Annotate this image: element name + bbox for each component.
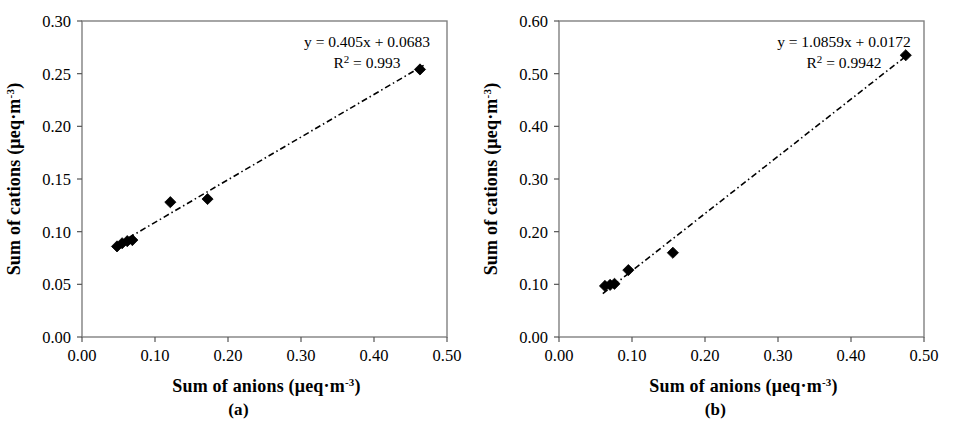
x-tick-label: 0.10 (618, 346, 647, 365)
y-tick-label: 0.00 (42, 328, 71, 347)
x-axis-title-tail: ) (832, 376, 838, 397)
y-tick-label: 0.05 (42, 275, 71, 294)
x-tick-label: 0.30 (764, 346, 793, 365)
r-squared-value: = 0.9942 (822, 54, 881, 71)
y-axis-title-tail: ) (4, 83, 25, 89)
y-tick-label: 0.25 (42, 65, 71, 84)
r-squared-prefix: R (807, 54, 818, 71)
y-axis-title-superscript: -3 (4, 89, 16, 99)
plot-a-content: 0.000.100.200.300.400.500.000.050.100.15… (4, 12, 461, 397)
panel-a-caption: (a) (0, 400, 477, 420)
r-squared-label: R2 = 0.993 (333, 53, 400, 71)
x-axis-title-superscript: -3 (822, 376, 832, 388)
y-axis-title: Sum of cations (μeq·m-3) (481, 83, 502, 276)
x-axis-title-tail: ) (355, 376, 361, 397)
y-tick-label: 0.20 (519, 223, 548, 242)
x-tick-label: 0.00 (68, 346, 97, 365)
y-tick-label: 0.40 (519, 117, 548, 136)
x-tick-label: 0.20 (214, 346, 243, 365)
r-squared-value: = 0.993 (349, 54, 401, 71)
x-tick-label: 0.50 (910, 346, 939, 365)
panel-b-caption: (b) (477, 400, 954, 420)
y-axis-title-group: Sum of cations (μeq·m-3) (481, 83, 502, 276)
x-axis-title: Sum of anions (μeq·m-3) (649, 376, 838, 397)
y-axis-title-superscript: -3 (481, 89, 493, 99)
y-axis-title-tail: ) (481, 83, 502, 89)
y-tick-label: 0.10 (42, 223, 71, 242)
y-tick-label: 0.30 (42, 12, 71, 31)
y-tick-label: 0.20 (42, 117, 71, 136)
y-tick-label: 0.30 (519, 170, 548, 189)
panel-a: 0.000.100.200.300.400.500.000.050.100.15… (0, 0, 477, 441)
regression-equation-label: y = 1.0859x + 0.0172 (777, 33, 911, 50)
x-axis-title-main: Sum of anions (μeq·m (172, 376, 345, 397)
scatter-plot-a: 0.000.100.200.300.400.500.000.050.100.15… (0, 0, 477, 441)
x-tick-label: 0.40 (360, 346, 389, 365)
y-tick-label: 0.50 (519, 65, 548, 84)
x-axis-title-superscript: -3 (345, 376, 355, 388)
y-axis-title-main: Sum of cations (μeq·m (481, 98, 502, 275)
scatter-plot-b: 0.000.100.200.300.400.500.000.100.200.30… (477, 0, 954, 441)
x-tick-label: 0.40 (837, 346, 866, 365)
plot-b-content: 0.000.100.200.300.400.500.000.100.200.30… (481, 12, 938, 397)
y-axis-title-group: Sum of cations (μeq·m-3) (4, 83, 25, 276)
y-tick-label: 0.60 (519, 12, 548, 31)
y-axis-title: Sum of cations (μeq·m-3) (4, 83, 25, 276)
x-tick-label: 0.20 (691, 346, 720, 365)
r-squared-prefix: R (333, 54, 344, 71)
y-tick-label: 0.00 (519, 328, 548, 347)
x-tick-label: 0.50 (433, 346, 462, 365)
y-axis-title-main: Sum of cations (μeq·m (4, 98, 25, 275)
panel-b: 0.000.100.200.300.400.500.000.100.200.30… (477, 0, 954, 441)
x-tick-label: 0.10 (141, 346, 170, 365)
y-tick-label: 0.15 (42, 170, 71, 189)
y-tick-label: 0.10 (519, 275, 548, 294)
x-axis-title-main: Sum of anions (μeq·m (649, 376, 822, 397)
regression-equation-label: y = 0.405x + 0.0683 (304, 33, 430, 50)
x-axis-title: Sum of anions (μeq·m-3) (172, 376, 361, 397)
figure-container: 0.000.100.200.300.400.500.000.050.100.15… (0, 0, 954, 441)
x-tick-label: 0.30 (287, 346, 316, 365)
x-tick-label: 0.00 (545, 346, 574, 365)
